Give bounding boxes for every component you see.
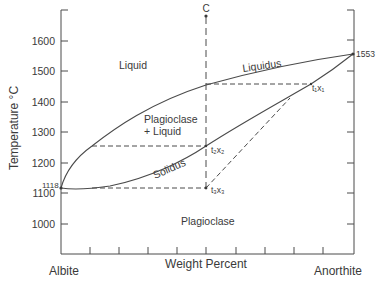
left-ticks — [61, 41, 68, 224]
phase-diagram: 1600 1500 1400 1300 1200 1100 1000 Tempe… — [0, 0, 376, 285]
label-t3x3: t₃x₃ — [211, 185, 225, 195]
label-c: C — [202, 3, 209, 14]
x-axis-label: Weight Percent — [165, 257, 247, 271]
region-plag-liquid-line1: Plagioclase — [144, 113, 198, 125]
point-c — [204, 14, 207, 17]
point-1118 — [59, 186, 62, 189]
point-t3x3 — [205, 187, 208, 190]
label-t2x2: t₂x₂ — [211, 145, 224, 155]
region-plagioclase: Plagioclase — [181, 215, 235, 227]
point-1553 — [351, 52, 354, 55]
y-axis-label: Temperature °C — [7, 86, 21, 170]
label-1553: 1553 — [356, 49, 375, 59]
bottom-ticks — [90, 247, 323, 254]
point-t2x2 — [205, 145, 207, 147]
x-right-label: Anorthite — [314, 264, 362, 278]
label-1118: 1118 — [42, 181, 59, 190]
y-tick-1000: 1000 — [32, 218, 56, 230]
liquidus-curve — [61, 54, 353, 188]
y-tick-1200: 1200 — [32, 157, 56, 169]
solid-path-line — [206, 98, 290, 188]
y-tick-1600: 1600 — [32, 35, 56, 47]
y-tick-1400: 1400 — [32, 96, 56, 108]
y-tick-1500: 1500 — [32, 65, 56, 77]
x-left-label: Albite — [49, 264, 79, 278]
solidus-curve — [61, 54, 353, 189]
right-ticks — [347, 40, 354, 224]
solidus-label: Solidus — [151, 156, 187, 181]
y-tick-labels: 1600 1500 1400 1300 1200 1100 1000 — [32, 35, 56, 230]
y-tick-1300: 1300 — [32, 126, 56, 138]
region-plag-liquid-line2: + Liquid — [144, 125, 181, 137]
label-t1x1: t₁x₁ — [312, 83, 324, 93]
region-liquid: Liquid — [119, 59, 147, 71]
